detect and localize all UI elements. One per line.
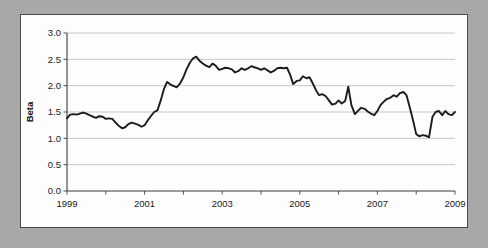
x-tick-label: 2009 xyxy=(444,198,465,209)
x-tick-label: 2003 xyxy=(212,198,233,209)
y-axis-title: Beta xyxy=(24,101,35,122)
y-tick-label: 2.5 xyxy=(48,54,61,65)
y-tick-label: 3.0 xyxy=(48,27,61,38)
x-tick-label: 2007 xyxy=(367,198,388,209)
chart-background xyxy=(21,15,467,227)
beta-line-chart: 0.00.51.01.52.02.53.0 199920012003200520… xyxy=(21,15,467,227)
y-tick-label: 1.0 xyxy=(48,133,61,144)
x-tick-label: 1999 xyxy=(56,198,77,209)
y-tick-label: 0.5 xyxy=(48,159,61,170)
y-tick-label: 0.0 xyxy=(48,185,61,196)
chart-card: 0.00.51.01.52.02.53.0 199920012003200520… xyxy=(20,14,468,228)
y-tick-label: 1.5 xyxy=(48,106,61,117)
x-tick-label: 2005 xyxy=(289,198,310,209)
chart-page: 0.00.51.01.52.02.53.0 199920012003200520… xyxy=(0,0,488,248)
x-tick-label: 2001 xyxy=(134,198,155,209)
y-tick-label: 2.0 xyxy=(48,80,61,91)
